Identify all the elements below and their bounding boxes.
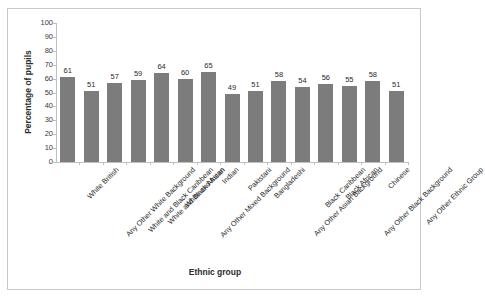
y-tick-label: 10 — [29, 144, 53, 152]
bar — [318, 84, 333, 162]
y-tick-mark — [53, 134, 56, 135]
y-tick-mark — [53, 51, 56, 52]
x-tick-mark — [150, 162, 151, 165]
bar — [201, 72, 216, 162]
y-tick-mark — [53, 79, 56, 80]
bar — [107, 83, 122, 162]
x-axis-title: Ethnic group — [8, 267, 422, 277]
bar — [60, 77, 75, 162]
y-tick-label: 40 — [29, 102, 53, 110]
bar — [271, 81, 286, 162]
y-axis-line — [56, 23, 57, 162]
bar-value-label: 51 — [241, 80, 269, 89]
y-tick-mark — [53, 93, 56, 94]
bar-value-label: 51 — [77, 80, 105, 89]
bar-value-label: 61 — [54, 66, 82, 75]
x-tick-label: Any Other Ethnic Group — [425, 166, 485, 226]
chart-frame: Percentage of pupils 1009080706050403020… — [7, 8, 421, 290]
x-tick-mark — [385, 162, 386, 165]
x-tick-label: White British — [86, 166, 121, 201]
plot-area: 1009080706050403020100 61515759646065495… — [56, 23, 408, 162]
x-tick-mark — [361, 162, 362, 165]
x-axis-labels: White BritishAny Other White BackgroundW… — [56, 166, 416, 262]
bar — [131, 80, 146, 162]
bar — [154, 73, 169, 162]
y-tick-label: 70 — [29, 61, 53, 69]
y-tick-label: 80 — [29, 47, 53, 55]
bar — [342, 86, 357, 162]
bar — [248, 91, 263, 162]
bar — [389, 91, 404, 162]
bar-value-label: 58 — [359, 70, 387, 79]
x-axis-line — [56, 162, 408, 163]
y-tick-label: 30 — [29, 116, 53, 124]
bar — [178, 79, 193, 162]
x-tick-mark — [103, 162, 104, 165]
x-tick-mark — [338, 162, 339, 165]
y-tick-label: 100 — [29, 19, 53, 27]
y-tick-label: 90 — [29, 33, 53, 41]
y-tick-mark — [53, 23, 56, 24]
y-tick-mark — [53, 120, 56, 121]
bar — [365, 81, 380, 162]
bar — [295, 87, 310, 162]
x-tick-mark — [408, 162, 409, 165]
y-tick-label: 60 — [29, 75, 53, 83]
x-tick-mark — [126, 162, 127, 165]
y-tick-mark — [53, 37, 56, 38]
x-tick-mark — [244, 162, 245, 165]
x-tick-mark — [197, 162, 198, 165]
y-tick-mark — [53, 162, 56, 163]
y-tick-mark — [53, 106, 56, 107]
y-tick-label: 0 — [29, 158, 53, 166]
y-tick-label: 50 — [29, 89, 53, 97]
bar-value-label: 65 — [195, 61, 223, 70]
x-tick-label: Chinese — [387, 166, 412, 191]
bar-value-label: 51 — [382, 80, 410, 89]
x-tick-mark — [79, 162, 80, 165]
y-tick-label: 20 — [29, 130, 53, 138]
x-tick-mark — [173, 162, 174, 165]
bar — [84, 91, 99, 162]
x-tick-mark — [314, 162, 315, 165]
x-tick-mark — [291, 162, 292, 165]
bar — [225, 94, 240, 162]
y-tick-mark — [53, 148, 56, 149]
